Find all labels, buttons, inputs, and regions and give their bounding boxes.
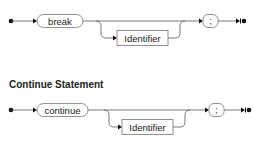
end-dot-icon bbox=[247, 108, 252, 113]
syntax-diagrams: break Identifier ; continue Identifier bbox=[0, 0, 254, 144]
end-dot-icon bbox=[242, 19, 247, 24]
break-semicolon-label: ; bbox=[209, 16, 212, 26]
arrow-icon bbox=[241, 108, 245, 113]
continue-diagram: continue Identifier ; bbox=[9, 104, 252, 135]
arrow-icon bbox=[199, 19, 203, 24]
break-identifier-label: Identifier bbox=[124, 33, 160, 44]
continue-semicolon-label: ; bbox=[215, 105, 218, 115]
arrow-icon bbox=[236, 19, 240, 24]
continue-keyword-label: continue bbox=[45, 105, 81, 116]
arrow-icon bbox=[33, 19, 37, 24]
arrow-icon bbox=[118, 125, 122, 130]
continue-identifier-label: Identifier bbox=[129, 122, 165, 133]
break-keyword-label: break bbox=[48, 16, 72, 27]
arrow-icon bbox=[205, 108, 209, 113]
break-diagram: break Identifier ; bbox=[9, 15, 247, 46]
arrow-icon bbox=[33, 108, 37, 113]
arrow-icon bbox=[113, 36, 117, 41]
